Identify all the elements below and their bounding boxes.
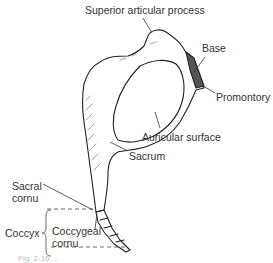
label-coccygeal-cornu-2: cornu: [52, 237, 78, 249]
label-coccyx: Coccyx: [5, 227, 39, 239]
sacrum-outline: [83, 30, 205, 212]
coccyx-brace: [42, 210, 51, 256]
figure-caption: Fig. 2-16 ...: [18, 254, 58, 263]
label-coccygeal-cornu-1: Coccygeal: [52, 225, 101, 237]
sacrum-coccyx-illustration: [0, 0, 273, 263]
label-sacral-cornu-2: cornu: [12, 192, 38, 204]
coccyx-outline: [96, 210, 130, 252]
label-auricular-surface: Auricular surface: [142, 131, 221, 143]
label-superior-articular-process: Superior articular process: [85, 4, 205, 16]
label-promontory: Promontory: [216, 91, 270, 103]
label-base: Base: [202, 42, 226, 54]
label-sacrum: Sacrum: [129, 150, 165, 162]
label-sacral-cornu-1: Sacral: [12, 180, 42, 192]
